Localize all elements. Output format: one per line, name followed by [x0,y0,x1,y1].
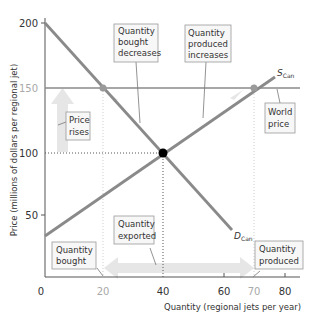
x-axis-title: Quantity (regional jets per year) [164,302,301,312]
y-tick-50: 50 [25,210,38,221]
callout-quantity-exported: Quantity exported [114,216,156,244]
y-tick-200: 200 [19,18,38,29]
x-tick-0: 0 [38,286,44,297]
demand-label: DCan [234,231,253,242]
callout-quantity-produced: Quantity produced [255,241,303,269]
svg-text:Quantity: Quantity [118,219,155,229]
callout-price-rises: Price rises [66,112,90,140]
svg-text:exported: exported [118,231,156,241]
world-point-bought [100,85,107,92]
svg-text:produced: produced [188,39,228,49]
svg-text:price: price [268,119,289,129]
supply-movement-arrow [230,90,243,100]
axes [41,18,300,277]
svg-text:produced: produced [259,256,299,266]
callout-bought-decreases: Quantity bought decreases [114,24,162,62]
svg-text:Quantity: Quantity [188,28,225,38]
svg-text:Price: Price [69,115,90,125]
quantity-exported-arrow [104,257,254,279]
svg-text:bought: bought [118,37,149,47]
world-point-produced [251,85,258,92]
y-tick-100: 100 [19,148,38,159]
x-tick-80: 80 [279,286,292,297]
callout-produced-increases: Quantity produced increases [185,25,231,62]
supply-label: SCan [277,68,295,79]
svg-text:increases: increases [188,50,229,60]
equilibrium-point [159,149,168,158]
x-tick-70: 70 [248,286,261,297]
y-tick-150: 150 [19,83,38,94]
x-tick-60: 60 [218,286,231,297]
svg-text:Quantity: Quantity [259,244,296,254]
x-tick-40: 40 [157,286,170,297]
chart: Quantity bought decreases Quantity produ… [0,0,309,319]
svg-text:Quantity: Quantity [56,245,93,255]
callout-quantity-bought: Quantity bought [52,242,96,269]
svg-text:rises: rises [69,127,90,137]
y-axis-title: Price (millions of dollars per regional … [9,64,19,236]
x-tick-20: 20 [97,286,110,297]
svg-text:bought: bought [56,256,87,266]
svg-text:World: World [268,107,292,117]
supply-curve [45,77,275,236]
callout-world-price: World price [265,103,295,133]
svg-text:decreases: decreases [118,48,162,58]
svg-text:Quantity: Quantity [118,26,155,36]
